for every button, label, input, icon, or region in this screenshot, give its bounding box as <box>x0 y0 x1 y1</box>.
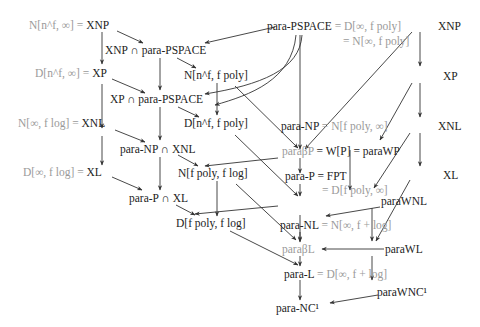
edges-layer <box>0 0 480 327</box>
node-n-nf-fpoly: N[n^f, f poly] <box>184 69 248 81</box>
complexity-diagram: N[n^f, ∞] = XNP XNP ∩ para-PSPACE D[n^f,… <box>0 0 480 327</box>
node-d-fpoly-flog: D[f poly, f log] <box>176 217 246 229</box>
node-para-pspace-eq2: = N[∞, f poly] <box>343 35 409 47</box>
node-xp-left: D[n^f, ∞] = XP <box>35 67 107 79</box>
node-para-nl: para-NL = N[∞, f + log] <box>280 219 391 231</box>
node-para-pspace: para-PSPACE = D[∞, f poly] <box>267 20 401 32</box>
node-para-wl: paraWL <box>385 243 423 255</box>
node-xnp-right: XNP <box>438 20 461 32</box>
node-xl-right: XL <box>443 169 458 181</box>
node-para-p-cap-xl: para-P ∩ XL <box>129 192 188 204</box>
node-para-p-fpt: para-P = FPT <box>285 170 347 182</box>
node-para-np: para-NP = N[f poly, ∞] <box>281 120 387 132</box>
node-d-nf-fpoly: D[n^f, f poly] <box>184 117 248 129</box>
node-para-p-eq2: = D[f poly, ∞] <box>322 184 388 196</box>
node-para-wnl: paraWNL <box>381 195 427 207</box>
node-xnl-right: XNL <box>438 120 462 132</box>
node-xp-right: XP <box>443 70 458 82</box>
node-xnp-cap-para-pspace: XNP ∩ para-PSPACE <box>105 44 206 56</box>
node-para-beta-l: paraβL <box>282 243 315 255</box>
node-xp-cap-para-pspace: XP ∩ para-PSPACE <box>110 93 203 105</box>
node-n-fpoly-flog: N[f poly, f log] <box>178 167 248 179</box>
node-para-np-cap-xnl: para-NP ∩ XNL <box>120 143 196 155</box>
node-para-l: para-L = D[∞, f + log] <box>284 268 387 280</box>
node-para-nc1: para-NC¹ <box>276 302 319 314</box>
node-xnl-left: N[∞, f log] = XNL <box>18 117 105 129</box>
node-xl-left: D[∞, f log] = XL <box>23 166 102 178</box>
node-para-beta-p: paraβP = W[P] = paraWP <box>282 145 400 157</box>
node-para-wnc1: paraWNC¹ <box>377 286 427 298</box>
node-xnp-left: N[n^f, ∞] = XNP <box>29 19 109 31</box>
